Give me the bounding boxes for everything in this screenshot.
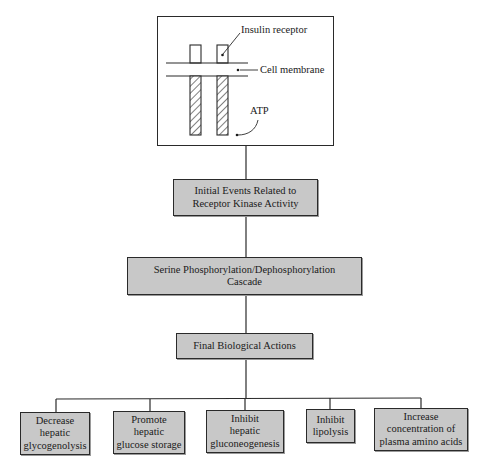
step-initial-events: Initial Events Related to Receptor Kinas… xyxy=(173,179,318,216)
action-line: hepatic xyxy=(210,425,279,438)
action-line: Decrease xyxy=(24,415,87,428)
receptor-beta-left xyxy=(190,76,201,135)
step-serine-cascade-line2: Cascade xyxy=(154,276,336,289)
atp-arrow xyxy=(238,120,258,135)
membrane-dot xyxy=(237,69,240,72)
action-line: Inhibit xyxy=(313,414,349,427)
action-line: hepatic xyxy=(116,426,181,439)
step-initial-events-line1: Initial Events Related to xyxy=(192,185,298,198)
atp-label: ATP xyxy=(250,105,269,117)
insulin-receptor-label: Insulin receptor xyxy=(241,24,307,36)
receptor-alpha-left xyxy=(190,45,201,63)
action-line: hepatic xyxy=(24,427,87,440)
action-increase-plasma-amino-acids: Increase concentration of plasma amino a… xyxy=(374,408,468,451)
action-line: Promote xyxy=(116,414,181,427)
action-inhibit-gluconeogenesis: Inhibit hepatic gluconeogenesis xyxy=(206,410,284,453)
atp-site-dot xyxy=(236,134,239,137)
step-serine-cascade-line1: Serine Phosphorylation/Dephosphorylation xyxy=(154,264,336,277)
step-serine-cascade: Serine Phosphorylation/Dephosphorylation… xyxy=(127,257,362,295)
action-line: lipolysis xyxy=(313,426,349,439)
action-line: glucose storage xyxy=(116,439,181,452)
step-initial-events-line2: Receptor Kinase Activity xyxy=(192,198,298,211)
receptor-beta-right xyxy=(217,76,228,135)
step-final-actions-label: Final Biological Actions xyxy=(193,340,296,353)
step-final-actions: Final Biological Actions xyxy=(176,333,313,359)
action-line: concentration of xyxy=(380,423,463,436)
insulin-receptor-leader xyxy=(223,33,240,54)
action-inhibit-lipolysis: Inhibit lipolysis xyxy=(306,409,355,443)
action-line: glycogenolysis xyxy=(24,440,87,453)
cell-membrane-label: Cell membrane xyxy=(260,64,324,76)
action-line: gluconeogenesis xyxy=(210,438,279,451)
action-line: Increase xyxy=(380,411,463,424)
receptor-illustration xyxy=(0,0,489,471)
action-decrease-glycogenolysis: Decrease hepatic glycogenolysis xyxy=(20,412,90,455)
action-line: plasma amino acids xyxy=(380,436,463,449)
action-promote-glucose-storage: Promote hepatic glucose storage xyxy=(113,411,185,454)
insulin-signaling-diagram: Insulin receptor Cell membrane ATP Initi… xyxy=(0,0,489,471)
action-line: Inhibit xyxy=(210,413,279,426)
